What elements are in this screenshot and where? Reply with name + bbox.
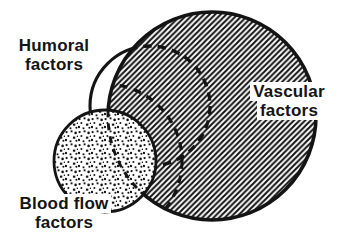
humoral-label-line1: Humoral	[19, 36, 89, 55]
vascular-factors-label: Vascular factors	[242, 82, 336, 120]
vascular-label-line1: Vascular	[250, 82, 328, 101]
blood-flow-label-line1: Blood flow	[17, 194, 112, 213]
humoral-factors-label: Humoral factors	[6, 36, 102, 74]
humoral-label-line2: factors	[25, 55, 83, 74]
blood-flow-label-line2: factors	[32, 213, 96, 232]
blood-flow-factors-label: Blood flow factors	[4, 194, 124, 232]
vascular-label-line2: factors	[257, 101, 321, 120]
virchow-triad-diagram: Humoral factors Vascular factors Blood f…	[0, 0, 338, 241]
